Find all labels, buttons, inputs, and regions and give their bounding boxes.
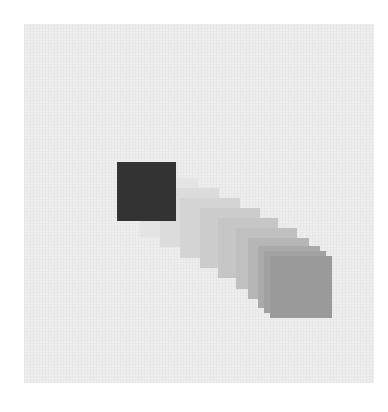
start-square — [117, 162, 176, 221]
end-square — [270, 256, 332, 318]
